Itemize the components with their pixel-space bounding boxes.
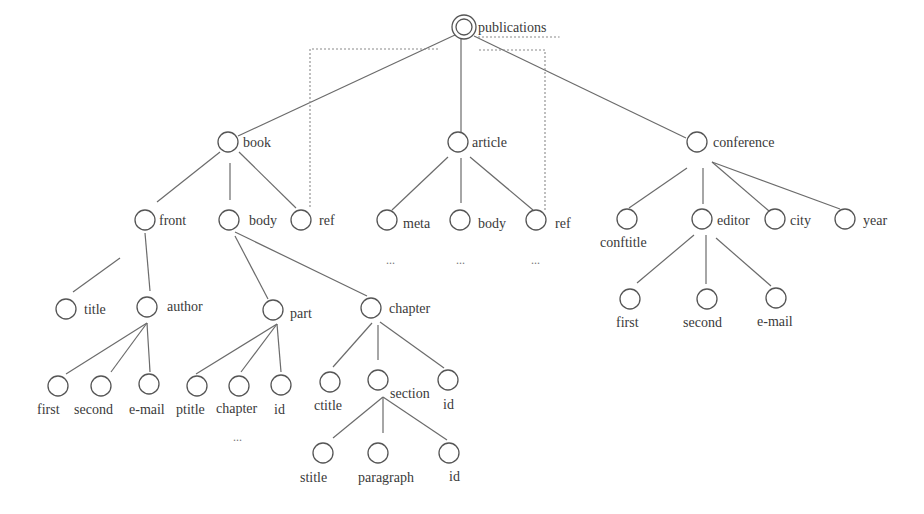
- node-circle-icon: [620, 289, 640, 309]
- node-circle-icon: [692, 209, 712, 229]
- node-paragraph[interactable]: [368, 443, 388, 463]
- node-label-conftitle: conftitle: [600, 235, 647, 250]
- edge-chapter-ctitle: [333, 323, 372, 367]
- node-part_chapter[interactable]: [229, 376, 249, 396]
- node-circle-icon: [218, 132, 238, 152]
- node-publications[interactable]: [452, 15, 476, 39]
- node-circle-icon: [448, 132, 468, 152]
- node-section_id[interactable]: [439, 443, 459, 463]
- node-circle-icon: [91, 376, 111, 396]
- node-label-publications: publications: [478, 20, 546, 35]
- node-author[interactable]: [137, 297, 157, 317]
- node-circle-icon: [48, 376, 68, 396]
- node-ptitle[interactable]: [187, 376, 207, 396]
- node-circle-icon: [368, 370, 388, 390]
- node-label-meta: meta: [403, 216, 431, 231]
- tree-diagram: publicationsbookarticleconferencefrontbo…: [0, 0, 924, 514]
- node-circle-icon: [187, 376, 207, 396]
- node-label-city: city: [790, 213, 811, 228]
- ellipsis-marker: ...: [386, 253, 395, 267]
- node-label-part_chapter: chapter: [216, 401, 258, 416]
- node-circle-icon: [835, 209, 855, 229]
- node-front[interactable]: [135, 210, 155, 230]
- edge-book_body-chapter: [235, 232, 367, 296]
- node-circle-icon: [229, 376, 249, 396]
- node-chapter_id[interactable]: [438, 370, 458, 390]
- node-author_second[interactable]: [91, 376, 111, 396]
- node-editor_first[interactable]: [620, 289, 640, 309]
- node-circle-icon: [320, 372, 340, 392]
- node-circle-icon: [219, 210, 239, 230]
- node-label-author: author: [167, 299, 203, 314]
- edge-author-author_first: [66, 323, 147, 374]
- edge-part-part_id: [277, 324, 281, 372]
- node-author_first[interactable]: [48, 376, 68, 396]
- node-meta[interactable]: [377, 210, 397, 230]
- edge-author-author_second: [111, 323, 147, 372]
- node-conference[interactable]: [687, 132, 707, 152]
- node-label-article_ref: ref: [555, 216, 571, 231]
- node-article_body[interactable]: [450, 210, 470, 230]
- node-label-section_id: id: [449, 469, 460, 484]
- edge-conference-year: [712, 162, 840, 209]
- node-ctitle[interactable]: [320, 372, 340, 392]
- node-circle-icon: [56, 299, 76, 319]
- node-label-editor_first: first: [616, 315, 639, 330]
- ref-link-article_ref: [478, 50, 545, 210]
- node-book_body[interactable]: [219, 210, 239, 230]
- node-title[interactable]: [56, 299, 76, 319]
- node-part_id[interactable]: [271, 375, 291, 395]
- node-label-author_second: second: [74, 402, 113, 417]
- node-label-section: section: [390, 386, 430, 401]
- node-label-book: book: [243, 135, 271, 150]
- node-editor_second[interactable]: [697, 289, 717, 309]
- node-label-ptitle: ptitle: [176, 402, 205, 417]
- node-label-ctitle: ctitle: [314, 398, 342, 413]
- node-circle-icon: [137, 297, 157, 317]
- edge-front-author: [145, 233, 150, 291]
- node-label-book_ref: ref: [319, 213, 335, 228]
- node-circle-icon: [450, 210, 470, 230]
- node-book_ref[interactable]: [291, 210, 311, 230]
- node-article[interactable]: [448, 132, 468, 152]
- node-circle-icon: [439, 443, 459, 463]
- edge-conference-conftitle: [629, 168, 687, 208]
- node-stitle[interactable]: [313, 443, 333, 463]
- edge-article-meta: [392, 157, 448, 210]
- node-circle-icon: [617, 209, 637, 229]
- node-section[interactable]: [368, 370, 388, 390]
- node-label-author_email: e-mail: [129, 402, 165, 417]
- reference-links: [310, 49, 545, 210]
- node-label-chapter: chapter: [389, 301, 431, 316]
- root-inner-circle-icon: [456, 19, 472, 35]
- edge-section-section_id: [383, 397, 447, 440]
- ellipsis-marker: ...: [233, 430, 242, 444]
- ellipsis-marker: ...: [531, 253, 540, 267]
- node-label-article: article: [472, 135, 507, 150]
- node-label-part: part: [290, 306, 312, 321]
- node-article_ref[interactable]: [526, 210, 546, 230]
- node-year[interactable]: [835, 209, 855, 229]
- node-circle-icon: [766, 288, 786, 308]
- edge-article-article_ref: [470, 157, 533, 210]
- node-circle-icon: [291, 210, 311, 230]
- node-label-chapter_id: id: [443, 397, 454, 412]
- node-label-stitle: stitle: [300, 470, 327, 485]
- node-author_email[interactable]: [139, 374, 159, 394]
- node-editor_email[interactable]: [766, 288, 786, 308]
- node-circle-icon: [271, 375, 291, 395]
- node-label-front: front: [159, 213, 186, 228]
- edge-editor-editor_email: [716, 238, 771, 286]
- node-part[interactable]: [263, 300, 283, 320]
- node-book[interactable]: [218, 132, 238, 152]
- node-circle-icon: [438, 370, 458, 390]
- node-editor[interactable]: [692, 209, 712, 229]
- node-circle-icon: [263, 300, 283, 320]
- node-label-book_body: body: [249, 213, 277, 228]
- node-circle-icon: [697, 289, 717, 309]
- node-chapter[interactable]: [361, 298, 381, 318]
- node-conftitle[interactable]: [617, 209, 637, 229]
- edge-part-part_chapter: [241, 324, 277, 372]
- edge-part-ptitle: [196, 324, 277, 374]
- node-city[interactable]: [765, 209, 785, 229]
